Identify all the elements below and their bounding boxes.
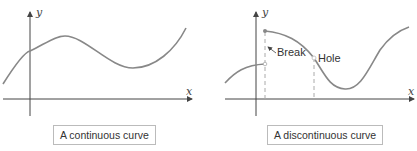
curve-left-piece [225, 64, 265, 83]
caption-discontinuous: A discontinuous curve [267, 125, 383, 145]
discontinuous-graph: y x Break Hole [225, 6, 415, 116]
x-axis-label: x [408, 85, 415, 98]
break-label: Break [277, 46, 306, 58]
break-pointer [268, 47, 276, 53]
hole-label: Hole [318, 52, 341, 64]
x-axis-label: x [186, 85, 193, 98]
y-axis-label: y [35, 6, 43, 19]
closed-endpoint [263, 29, 267, 33]
open-endpoint [263, 62, 267, 66]
caption-continuous: A continuous curve [53, 125, 156, 145]
y-axis-label: y [261, 6, 269, 19]
hole-point [312, 56, 316, 60]
continuous-graph: y x [3, 6, 193, 116]
